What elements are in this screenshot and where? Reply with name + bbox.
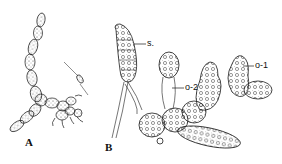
panel-label-a: A bbox=[25, 137, 33, 148]
annotation-o2: o-2 bbox=[185, 83, 198, 92]
figure-canvas: A B s. o-2 o-1 bbox=[0, 0, 282, 164]
panel-a-drawing bbox=[8, 12, 88, 133]
annotation-s: s. bbox=[147, 39, 154, 48]
illustration bbox=[0, 0, 282, 164]
panel-label-b: B bbox=[105, 142, 112, 153]
annotation-o1: o-1 bbox=[255, 61, 268, 70]
